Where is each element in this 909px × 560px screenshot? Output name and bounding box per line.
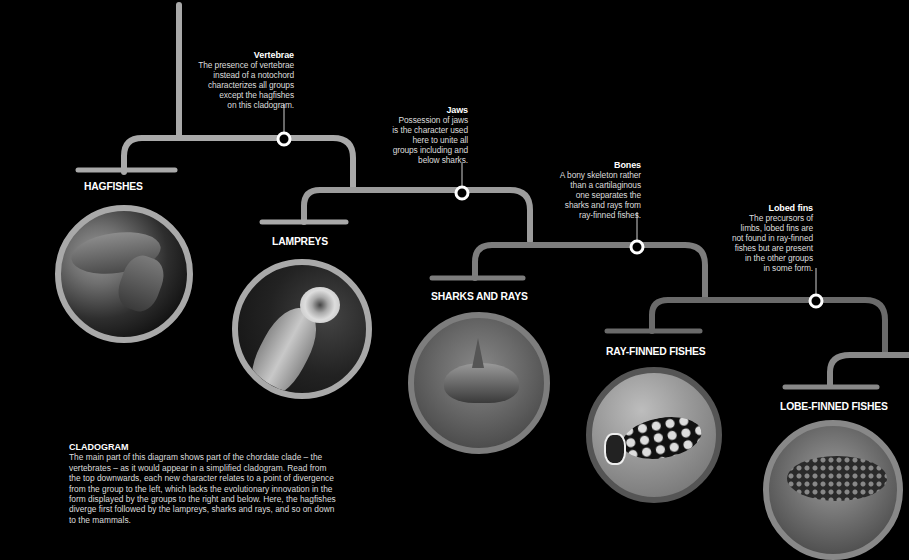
triggerfish-photo: [586, 367, 722, 503]
group-label-lampreys: LAMPREYS: [272, 235, 328, 247]
group-label-lobe-finned-fishes: LOBE-FINNED FISHES: [780, 400, 888, 412]
coelacanth-photo: [763, 420, 903, 560]
caption-title: CLADOGRAM: [69, 442, 339, 452]
note-title: Vertebrae: [190, 50, 294, 60]
caption-text: The main part of this diagram shows part…: [69, 452, 339, 525]
character-note-bones: Bones A bony skeleton rather than a cart…: [550, 160, 641, 220]
character-note-vertebrae: Vertebrae The presence of vertebrae inst…: [190, 50, 294, 110]
note-title: Jaws: [380, 105, 468, 115]
cladogram-caption: CLADOGRAM The main part of this diagram …: [69, 442, 339, 525]
node-bones: [631, 241, 643, 253]
branch-vertebrae: [124, 138, 353, 188]
shark-photo: [408, 312, 550, 454]
group-label-ray-finned-fishes: RAY-FINNED FISHES: [606, 345, 706, 357]
node-lobed-fins: [810, 295, 822, 307]
character-note-lobed-fins: Lobed fins The precursors of limbs, lobe…: [725, 203, 813, 273]
character-note-jaws: Jaws Possession of jaws is the character…: [380, 105, 468, 165]
lamprey-photo: [232, 259, 372, 399]
branch-tetrapods: [830, 355, 909, 386]
note-title: Lobed fins: [725, 203, 813, 213]
node-jaws: [456, 187, 468, 199]
group-label-sharks-and-rays: SHARKS AND RAYS: [431, 290, 528, 302]
branch-jaws: [304, 190, 530, 241]
node-vertebrae: [278, 133, 290, 145]
note-title: Bones: [550, 160, 641, 170]
group-label-hagfishes: HAGFISHES: [84, 180, 143, 192]
hagfish-photo: [55, 205, 193, 343]
